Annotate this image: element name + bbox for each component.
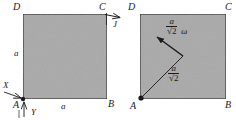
right-vertex-label-D: D bbox=[128, 2, 135, 12]
right-vertex-label-C: C bbox=[225, 2, 232, 12]
figure-canvas: D C B A a a J X Y D C B A a √2 ω a √2 bbox=[0, 0, 236, 125]
left-side-label-vertical: a bbox=[14, 49, 19, 58]
right-vertex-label-A: A bbox=[130, 101, 136, 111]
pin-support-dot bbox=[21, 97, 25, 101]
left-side-label-horizontal: a bbox=[61, 102, 66, 111]
pivot-dot bbox=[138, 95, 143, 100]
right-vertex-label-B: B bbox=[225, 100, 231, 110]
velocity-denominator: √2 bbox=[166, 26, 177, 36]
radius-fraction: a √2 bbox=[168, 64, 179, 83]
left-vertex-label-B: B bbox=[108, 99, 114, 109]
left-vertex-label-D: D bbox=[13, 2, 20, 12]
velocity-magnitude-fraction: a √2 bbox=[166, 17, 177, 36]
left-vertex-label-C: C bbox=[99, 2, 106, 12]
impulse-label: J bbox=[113, 20, 117, 29]
velocity-numerator: a bbox=[166, 17, 177, 26]
reaction-y-label: Y bbox=[31, 108, 36, 117]
reaction-x-label: X bbox=[3, 81, 9, 90]
radius-numerator: a bbox=[168, 64, 179, 73]
left-vertex-label-A: A bbox=[13, 100, 19, 110]
reaction-x-arrow bbox=[4, 92, 21, 98]
radius-denominator: √2 bbox=[168, 73, 179, 83]
left-lamina-square bbox=[23, 14, 107, 99]
angular-velocity-label: ω bbox=[181, 26, 187, 36]
